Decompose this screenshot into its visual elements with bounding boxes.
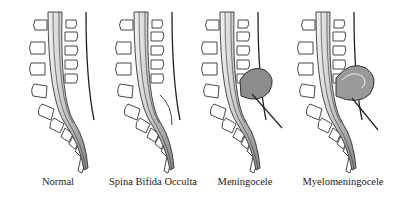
panel-meningocele-illustration <box>202 12 283 173</box>
spine-diagram <box>0 0 412 202</box>
panel-myelomeningocele-illustration <box>298 12 379 173</box>
label-spina-bifida-occulta: Spina Bifida Occulta <box>109 176 197 187</box>
label-normal: Normal <box>42 176 74 187</box>
panel-normal-illustration <box>30 12 95 173</box>
label-meningocele: Meningocele <box>218 176 273 187</box>
panel-spina-bifida-occulta-illustration <box>116 12 181 173</box>
label-myelomeningocele: Myelomeningocele <box>302 176 383 187</box>
